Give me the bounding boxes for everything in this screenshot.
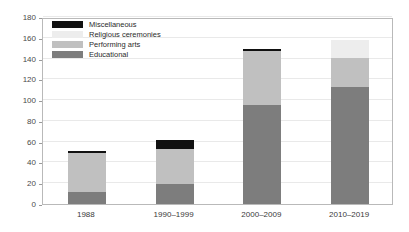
bar-segment[interactable] bbox=[156, 140, 194, 149]
legend-swatch-icon bbox=[52, 51, 83, 58]
legend-item[interactable]: Performing arts bbox=[52, 40, 161, 49]
bar-stack[interactable] bbox=[156, 17, 194, 204]
bar-segment[interactable] bbox=[243, 49, 281, 51]
legend-label: Educational bbox=[89, 51, 128, 59]
y-tick-label: 160 bbox=[8, 35, 36, 43]
bar-segment[interactable] bbox=[331, 87, 369, 204]
stacked-bar-chart: 020406080100120140160180 19881990–199920… bbox=[0, 0, 409, 232]
bar-segment[interactable] bbox=[243, 105, 281, 204]
bar-segment[interactable] bbox=[331, 58, 369, 87]
bar-segment[interactable] bbox=[243, 51, 281, 105]
legend-label: Performing arts bbox=[89, 41, 140, 49]
bar-stack[interactable] bbox=[243, 17, 281, 204]
bar-segment[interactable] bbox=[156, 184, 194, 204]
bar-stack[interactable] bbox=[331, 17, 369, 204]
bar-segment[interactable] bbox=[331, 40, 369, 58]
x-tick-label: 2000–2009 bbox=[221, 210, 301, 219]
y-tick-label: 140 bbox=[8, 56, 36, 64]
y-tick-label: 180 bbox=[8, 14, 36, 22]
y-tick-label: 20 bbox=[8, 180, 36, 188]
legend-swatch-icon bbox=[52, 41, 83, 48]
y-tick-label: 40 bbox=[8, 159, 36, 167]
y-tick-label: 120 bbox=[8, 76, 36, 84]
bar-segment[interactable] bbox=[68, 153, 106, 191]
bar-segment[interactable] bbox=[68, 151, 106, 153]
bar-segment[interactable] bbox=[68, 192, 106, 204]
y-tick-label: 100 bbox=[8, 97, 36, 105]
legend-item[interactable]: Religious ceremonies bbox=[52, 30, 161, 39]
bar-segment[interactable] bbox=[156, 149, 194, 184]
y-tick-label: 80 bbox=[8, 118, 36, 126]
x-tick-label: 1990–1999 bbox=[134, 210, 214, 219]
legend-item[interactable]: Miscellaneous bbox=[52, 20, 161, 29]
y-tick-label: 60 bbox=[8, 139, 36, 147]
y-tick-label: 0 bbox=[8, 201, 36, 209]
y-tick-mark bbox=[39, 205, 42, 206]
x-tick-label: 2010–2019 bbox=[309, 210, 389, 219]
legend-label: Religious ceremonies bbox=[89, 31, 161, 39]
legend-item[interactable]: Educational bbox=[52, 50, 161, 59]
chart-legend: MiscellaneousReligious ceremoniesPerform… bbox=[52, 20, 161, 59]
legend-swatch-icon bbox=[52, 31, 83, 38]
x-tick-label: 1988 bbox=[46, 210, 126, 219]
legend-label: Miscellaneous bbox=[89, 21, 137, 29]
legend-swatch-icon bbox=[52, 21, 83, 28]
